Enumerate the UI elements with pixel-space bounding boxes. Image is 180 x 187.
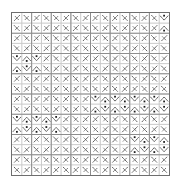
lattice-glyph [132,15,137,20]
lattice-glyph [14,147,19,152]
lattice-glyph [83,106,88,111]
lattice-glyph [112,167,117,172]
lattice-glyph [14,46,19,51]
lattice-glyph [73,96,78,101]
lattice-glyph [73,56,78,61]
lattice-glyph [131,148,139,153]
lattice-glyph [53,56,58,61]
major-grid-svg [12,13,169,175]
lattice-glyph [14,137,19,142]
lattice-glyph [112,46,117,51]
lattice-glyph [142,66,147,71]
lattice-glyph [161,167,166,172]
lattice-glyph [53,147,58,152]
lattice-glyph [63,157,68,162]
lattice-glyph [103,15,108,20]
lattice-glyph [93,137,98,142]
lattice-glyph [103,86,108,91]
lattice-glyph [112,157,117,162]
lattice-glyph [103,147,108,152]
lattice-glyph [152,66,157,71]
lattice-glyph [52,116,60,121]
lattice-glyph [103,46,108,51]
lattice-glyph [34,96,39,101]
lattice-glyph [93,15,98,20]
lattice-glyph [160,26,168,31]
lattice-glyph [103,127,108,132]
lattice-glyph [34,76,39,81]
lattice-glyph [63,96,68,101]
lattice-glyph [142,86,147,91]
lattice-glyph [24,167,29,172]
lattice-glyph [33,127,41,132]
lattice-glyph [53,137,58,142]
lattice-glyph [122,15,127,20]
lattice-glyph [63,66,68,71]
lattice-glyph [103,157,108,162]
lattice-glyph [73,76,78,81]
lattice-glyph [161,157,166,162]
lattice-glyph [92,96,100,101]
lattice-glyph [141,97,149,102]
lattice-glyph [44,15,49,20]
lattice-glyph [24,25,29,30]
lattice-glyph [53,36,58,41]
lattice-glyph [23,56,31,61]
lattice-glyph [33,116,41,121]
lattice-glyph [93,76,98,81]
lattice-glyph [122,56,127,61]
lattice-glyph [63,127,68,132]
lattice-glyph [83,15,88,20]
lattice-glyph [34,25,39,30]
lattice-glyph [83,25,88,30]
lattice-glyph [14,76,19,81]
lattice-glyph [44,46,49,51]
lattice-glyph [34,15,39,20]
lattice-glyph [93,147,98,152]
lattice-glyph [161,36,166,41]
lattice-glyph [13,127,21,132]
lattice-glyph [131,96,139,101]
lattice-glyph [44,76,49,81]
lattice-glyph [141,146,149,151]
lattice-glyph [83,76,88,81]
lattice-glyph [152,36,157,41]
lattice-glyph [132,127,137,132]
lattice-glyph [160,146,168,151]
minor-grid [12,13,169,175]
lattice-glyph [14,86,19,91]
lattice-glyph [24,76,29,81]
lattice-glyph [83,36,88,41]
lattice-glyph [122,167,127,172]
lattice-glyph [161,66,166,71]
lattice-glyph [142,56,147,61]
plot-frame [11,12,170,176]
lattice-glyph [14,96,19,101]
lattice-glyph [73,15,78,20]
lattice-glyph [43,126,51,131]
lattice-glyph [93,167,98,172]
lattice-glyph [24,46,29,51]
lattice-glyph [103,76,108,81]
lattice-glyph [142,46,147,51]
lattice-glyph [132,117,137,122]
lattice-glyph [103,167,108,172]
lattice-glyph [34,86,39,91]
lattice-glyph [73,147,78,152]
lattice-glyph [161,76,166,81]
lattice-glyph [14,15,19,20]
lattice-glyph [161,46,166,51]
lattice-glyph [152,117,157,122]
lattice-glyph [24,147,29,152]
lattice-glyph [83,86,88,91]
lattice-glyph [53,167,58,172]
lattice-glyph [44,147,49,152]
lattice-glyph [132,25,137,30]
lattice-glyph [103,36,108,41]
lattice-glyph [112,36,117,41]
lattice-glyph [23,126,31,131]
lattice-glyph [83,137,88,142]
lattice-glyph [122,137,127,142]
lattice-glyph [141,106,149,111]
lattice-glyph [103,56,108,61]
